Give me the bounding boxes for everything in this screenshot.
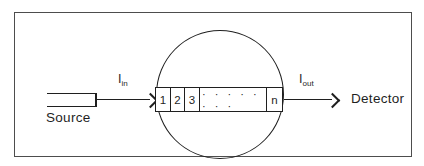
output-intensity-label: Iout	[299, 72, 314, 88]
output-intensity-subscript: out	[302, 79, 313, 88]
source-tube	[47, 93, 97, 107]
cell-segment-n: n	[267, 88, 282, 111]
output-arrowhead-icon	[325, 93, 341, 109]
cell-segment-2: 2	[171, 88, 185, 111]
cell-segment-row: 1 2 3 · · · · · · · · n	[155, 87, 283, 112]
diagram-canvas: Source Iin 1 2 3 · · · · · · · · n Iout …	[0, 0, 424, 166]
cell-segment-3: 3	[185, 88, 200, 111]
cell-segment-1: 1	[156, 88, 171, 111]
detector-label: Detector	[351, 91, 404, 106]
input-intensity-subscript: in	[121, 79, 127, 88]
input-intensity-label: Iin	[118, 72, 128, 88]
cell-segment-ellipsis: · · · · · · · ·	[200, 88, 267, 111]
source-label: Source	[46, 110, 91, 125]
diagram-frame: Source Iin 1 2 3 · · · · · · · · n Iout …	[14, 12, 412, 157]
